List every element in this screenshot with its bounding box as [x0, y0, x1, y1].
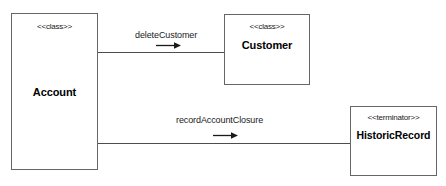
stereotype-label: <<terminator>>	[368, 114, 420, 122]
class-node-customer[interactable]: <<class>> Customer	[224, 14, 310, 85]
edge-line-record-account-closure[interactable]	[98, 143, 350, 144]
stereotype-label: <<class>>	[249, 23, 284, 31]
edge-line-delete-customer[interactable]	[98, 52, 224, 53]
node-name-label: Account	[33, 86, 76, 97]
edge-label-delete-customer: deleteCustomer	[135, 31, 197, 40]
diagram-canvas: deleteCustomer recordAccountClosure <<cl…	[0, 0, 446, 186]
edge-label-record-account-closure: recordAccountClosure	[176, 116, 263, 125]
terminator-node-historicrecord[interactable]: <<terminator>> HistoricRecord	[350, 106, 437, 176]
stereotype-label: <<class>>	[37, 23, 72, 31]
node-name-label: Customer	[242, 40, 293, 51]
arrow-right-icon	[156, 41, 182, 50]
class-node-account[interactable]: <<class>> Account	[11, 13, 98, 170]
node-name-label: HistoricRecord	[357, 130, 431, 141]
arrow-right-icon	[213, 131, 239, 140]
